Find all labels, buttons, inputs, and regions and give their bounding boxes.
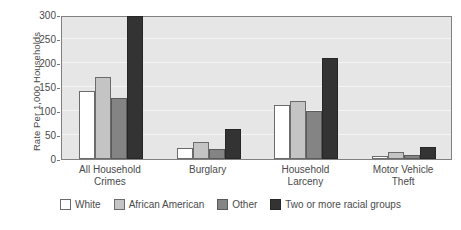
bar [404,155,420,159]
x-axis-label-line: Theft [348,176,458,188]
bars-layer [62,17,451,159]
x-axis-label-line: Larceny [250,176,360,188]
y-tick-label: 50 [26,131,56,141]
legend-swatch [270,199,281,210]
y-tick-mark [57,40,60,41]
y-tick-label: 100 [26,107,56,117]
bar-chart: Rate Per 1,000 Households 05010015020025… [0,0,461,230]
y-tick-mark [57,112,60,113]
y-tick-mark [57,160,60,161]
bar [290,101,306,159]
bar-group [177,17,241,159]
legend-label: White [75,199,101,210]
legend-item[interactable]: Two or more racial groups [270,199,401,210]
x-axis-labels: All HouseholdCrimesBurglaryHouseholdLarc… [61,164,452,198]
legend-item[interactable]: African American [114,199,205,210]
bar [111,98,127,159]
bar [95,77,111,159]
legend-swatch [60,199,71,210]
chart-legend: WhiteAfrican AmericanOtherTwo or more ra… [0,199,461,210]
y-tick-label: 250 [26,35,56,45]
x-axis-label-line: Crimes [55,176,165,188]
legend-label: Two or more racial groups [285,199,401,210]
x-axis-label-line: Household [250,164,360,176]
x-axis-label: HouseholdLarceny [250,164,360,187]
legend-item[interactable]: Other [217,199,257,210]
y-tick-label: 200 [26,59,56,69]
legend-swatch [114,199,125,210]
y-tick-mark [57,16,60,17]
y-tick-mark [57,136,60,137]
legend-label: African American [129,199,205,210]
x-axis-label: All HouseholdCrimes [55,164,165,187]
bar [372,156,388,159]
y-tick-label: 0 [26,155,56,165]
y-tick-mark [57,64,60,65]
bar [193,142,209,159]
x-axis-label: Motor VehicleTheft [348,164,458,187]
y-axis-ticks: 050100150200250300 [26,10,56,162]
x-axis-label-line: All Household [55,164,165,176]
bar [79,91,95,159]
bar-group [79,17,143,159]
legend-swatch [217,199,228,210]
bar [420,147,436,159]
bar-group [274,17,338,159]
bar [127,16,143,159]
y-tick-mark [57,88,60,89]
plot-area [61,16,452,160]
legend-label: Other [232,199,257,210]
x-axis-label-line: Motor Vehicle [348,164,458,176]
bar [209,149,225,159]
bar [225,129,241,159]
bar [177,148,193,159]
bar [322,58,338,159]
x-axis-label: Burglary [153,164,263,176]
legend-item[interactable]: White [60,199,101,210]
bar-group [372,17,436,159]
bar [306,111,322,159]
bar [274,105,290,159]
x-axis-label-line: Burglary [153,164,263,176]
bar [388,152,404,159]
y-tick-label: 300 [26,11,56,21]
y-tick-label: 150 [26,83,56,93]
